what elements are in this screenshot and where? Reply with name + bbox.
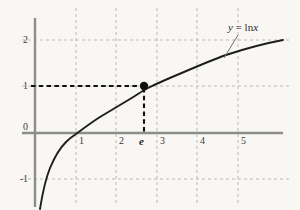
x-tick-label-1: 1 [79, 136, 84, 146]
curve-equation-annotation: y = lnx [228, 22, 258, 33]
y-tick-label-1: 1 [12, 81, 28, 91]
ln-function-graph-figure: 2 1 0 -1 1 2 3 4 5 e y = lnx [0, 0, 300, 210]
annotation-leader-line [224, 35, 238, 58]
y-tick-label-0: 0 [12, 122, 28, 132]
y-tick-label-minus-1: -1 [9, 174, 28, 184]
annotation-x-symbol: x [253, 21, 258, 33]
x-tick-label-3: 3 [160, 136, 165, 146]
annotation-equals-sign: = [233, 21, 245, 33]
x-tick-label-2: 2 [119, 136, 124, 146]
vertical-gridlines [76, 8, 238, 204]
annotation-ln-symbol: ln [245, 21, 254, 33]
x-tick-label-e: e [139, 136, 144, 147]
marked-point-e-1 [140, 82, 148, 90]
y-tick-label-2: 2 [12, 35, 28, 45]
x-tick-label-4: 4 [200, 136, 205, 146]
x-tick-label-5: 5 [241, 136, 246, 146]
